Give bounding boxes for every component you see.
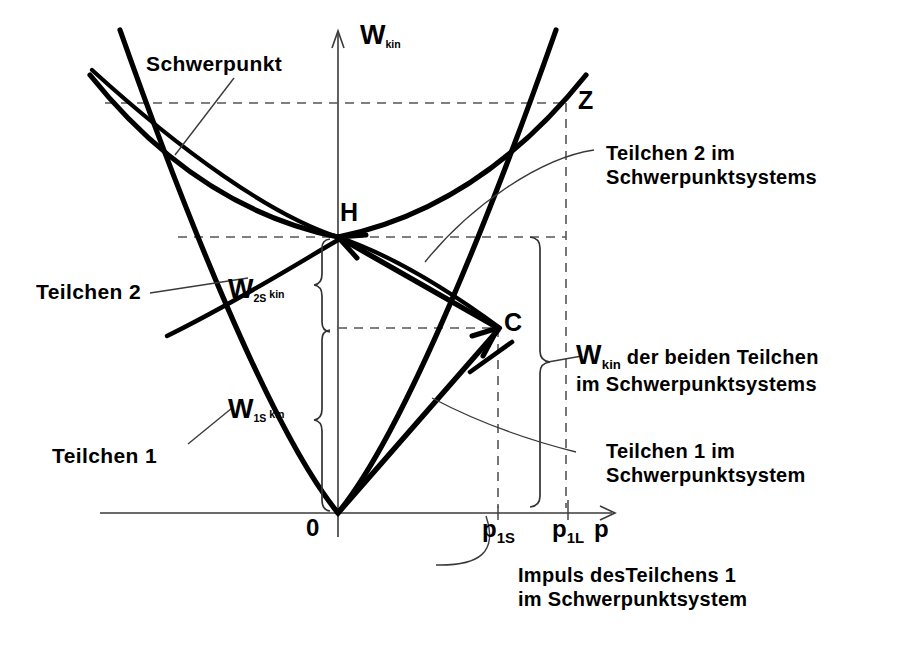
brace-wkin-total — [530, 237, 550, 507]
origin-label: 0 — [306, 514, 319, 542]
arrow-o-to-c — [338, 328, 498, 513]
annotation-teilchen2-curve: Teilchen 2 — [36, 280, 141, 305]
annotation-teilchen1sp-line2: Schwerpunktsystem — [606, 464, 806, 488]
point-label-z: Z — [578, 86, 593, 116]
annotation-teilchen2-schwerpunktsystem: Teilchen 2 im Schwerpunktsystems — [606, 142, 817, 189]
annotation-wkin-line1: Wkin der beiden Teilchen — [576, 340, 819, 373]
annotation-wkin-beide-teilchen: Wkin der beiden Teilchen im Schwerpunkts… — [576, 340, 819, 396]
leader-schwerpunkt — [175, 78, 234, 155]
label-w2s-kin: W2S kin — [228, 274, 285, 306]
annotation-impuls-teilchen1: Impuls desTeilchens 1 im Schwerpunktsyst… — [518, 564, 747, 611]
x-axis-label: p — [594, 515, 609, 543]
leader-teilchen1-curve — [188, 408, 232, 444]
leader-teilchen1-sp — [432, 398, 576, 452]
annotation-schwerpunkt: Schwerpunkt — [146, 52, 282, 77]
diagram-graphics — [0, 0, 903, 647]
tick-label-p1l: p1L — [552, 515, 584, 547]
y-axis-label: Wkin — [360, 20, 401, 52]
leader-teilchen2-sp — [425, 150, 594, 262]
annotation-teilchen2-line2: Schwerpunktsystems — [606, 166, 817, 190]
point-label-c: C — [504, 308, 522, 338]
annotation-impuls-line2: im Schwerpunktsystem — [518, 588, 747, 612]
annotation-teilchen1sp-line1: Teilchen 1 im — [606, 440, 806, 464]
point-label-h: H — [340, 198, 358, 228]
annotation-teilchen2-line1: Teilchen 2 im — [606, 142, 817, 166]
annotation-impuls-line1: Impuls desTeilchens 1 — [518, 564, 747, 588]
tick-label-p1s: p1S — [482, 515, 515, 547]
leader-lines — [150, 78, 594, 565]
annotation-teilchen1-curve: Teilchen 1 — [52, 444, 157, 469]
label-w1s-kin: W1S kin — [228, 394, 285, 426]
annotation-teilchen1-schwerpunktsystem: Teilchen 1 im Schwerpunktsystem — [606, 440, 806, 487]
axes-group — [100, 31, 615, 537]
diagram-canvas: Wkin p 0 p1S p1L H C Z W2S kin W1S kin S… — [0, 0, 903, 647]
annotation-wkin-line2: im Schwerpunktsystems — [576, 373, 819, 397]
